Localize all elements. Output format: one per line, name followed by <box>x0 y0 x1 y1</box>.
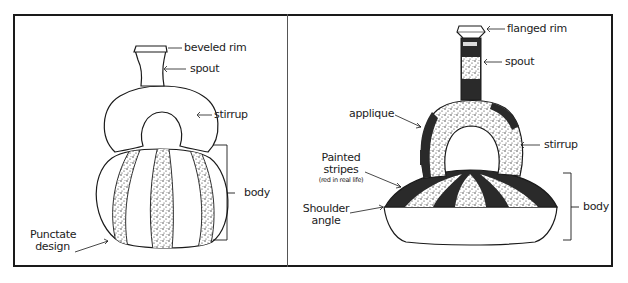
label-shoulder-line2: angle <box>300 215 352 227</box>
label-punctate-line2: design <box>30 241 75 253</box>
label-beveled-rim: beveled rim <box>184 42 246 54</box>
vessel-drawings <box>0 0 628 283</box>
label-stirrup-right: stirrup <box>544 139 578 151</box>
left-vessel <box>75 46 235 252</box>
label-shoulder-angle: Shoulder angle <box>300 203 352 227</box>
label-stripes-note: (red in real life) <box>314 176 368 184</box>
label-body-right: body <box>583 201 609 213</box>
label-punctate-design: Punctate design <box>30 229 75 253</box>
label-painted-stripes: Painted stripes (red in real life) <box>314 152 368 184</box>
label-spout-right: spout <box>505 56 534 68</box>
label-spout-left: spout <box>190 63 219 75</box>
label-applique: applique <box>349 108 394 120</box>
label-stripes-line2: stripes <box>314 164 368 176</box>
label-flanged-rim: flanged rim <box>507 23 567 35</box>
right-vessel <box>350 26 579 245</box>
label-stirrup-left: stirrup <box>214 109 248 121</box>
label-body-left: body <box>244 187 270 199</box>
